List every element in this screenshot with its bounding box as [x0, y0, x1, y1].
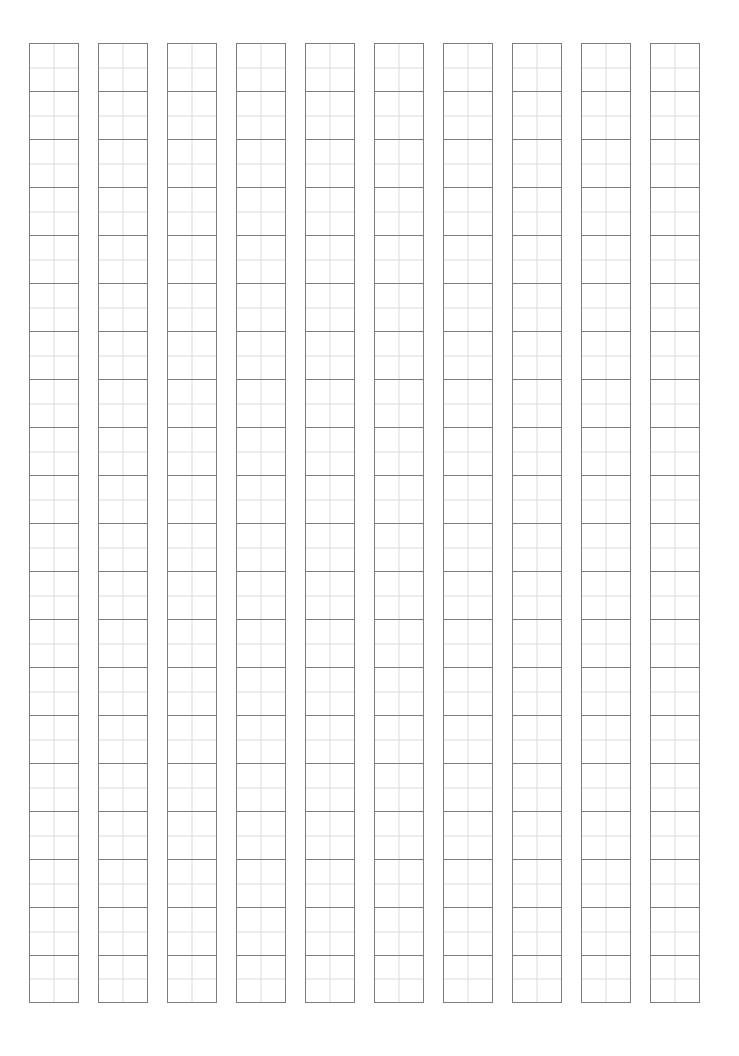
grid-cell[interactable]: [581, 667, 631, 715]
grid-cell[interactable]: [29, 427, 79, 475]
grid-cell[interactable]: [305, 571, 355, 619]
grid-cell[interactable]: [650, 331, 700, 379]
grid-cell[interactable]: [374, 811, 424, 859]
grid-cell[interactable]: [167, 331, 217, 379]
grid-cell[interactable]: [443, 427, 493, 475]
grid-cell[interactable]: [650, 235, 700, 283]
grid-cell[interactable]: [443, 619, 493, 667]
grid-cell[interactable]: [29, 955, 79, 1003]
grid-cell[interactable]: [374, 379, 424, 427]
grid-cell[interactable]: [581, 619, 631, 667]
grid-cell[interactable]: [512, 139, 562, 187]
grid-cell[interactable]: [512, 571, 562, 619]
grid-cell[interactable]: [512, 955, 562, 1003]
grid-cell[interactable]: [512, 811, 562, 859]
grid-cell[interactable]: [650, 715, 700, 763]
grid-cell[interactable]: [374, 571, 424, 619]
grid-cell[interactable]: [443, 907, 493, 955]
grid-cell[interactable]: [305, 187, 355, 235]
grid-cell[interactable]: [305, 379, 355, 427]
grid-cell[interactable]: [98, 379, 148, 427]
grid-cell[interactable]: [305, 811, 355, 859]
grid-cell[interactable]: [167, 91, 217, 139]
grid-cell[interactable]: [443, 955, 493, 1003]
grid-cell[interactable]: [374, 763, 424, 811]
grid-cell[interactable]: [236, 283, 286, 331]
grid-cell[interactable]: [167, 955, 217, 1003]
grid-cell[interactable]: [650, 379, 700, 427]
grid-cell[interactable]: [236, 379, 286, 427]
grid-cell[interactable]: [374, 715, 424, 763]
grid-cell[interactable]: [374, 475, 424, 523]
grid-cell[interactable]: [374, 283, 424, 331]
grid-cell[interactable]: [443, 379, 493, 427]
grid-cell[interactable]: [650, 811, 700, 859]
grid-cell[interactable]: [581, 379, 631, 427]
grid-cell[interactable]: [512, 475, 562, 523]
grid-cell[interactable]: [305, 475, 355, 523]
grid-cell[interactable]: [512, 427, 562, 475]
grid-cell[interactable]: [29, 379, 79, 427]
grid-cell[interactable]: [305, 763, 355, 811]
grid-cell[interactable]: [443, 235, 493, 283]
grid-cell[interactable]: [236, 715, 286, 763]
grid-cell[interactable]: [581, 139, 631, 187]
grid-cell[interactable]: [512, 91, 562, 139]
grid-cell[interactable]: [167, 379, 217, 427]
grid-cell[interactable]: [581, 523, 631, 571]
grid-cell[interactable]: [650, 571, 700, 619]
grid-cell[interactable]: [443, 43, 493, 91]
grid-cell[interactable]: [29, 715, 79, 763]
grid-cell[interactable]: [98, 91, 148, 139]
grid-cell[interactable]: [512, 235, 562, 283]
grid-cell[interactable]: [443, 523, 493, 571]
grid-cell[interactable]: [305, 235, 355, 283]
grid-cell[interactable]: [29, 907, 79, 955]
grid-cell[interactable]: [650, 475, 700, 523]
grid-cell[interactable]: [650, 283, 700, 331]
grid-cell[interactable]: [29, 859, 79, 907]
grid-cell[interactable]: [236, 187, 286, 235]
grid-cell[interactable]: [374, 235, 424, 283]
grid-cell[interactable]: [650, 955, 700, 1003]
grid-cell[interactable]: [305, 859, 355, 907]
grid-cell[interactable]: [581, 427, 631, 475]
grid-cell[interactable]: [443, 139, 493, 187]
grid-cell[interactable]: [512, 619, 562, 667]
grid-cell[interactable]: [305, 667, 355, 715]
grid-cell[interactable]: [98, 235, 148, 283]
grid-cell[interactable]: [98, 667, 148, 715]
grid-cell[interactable]: [236, 475, 286, 523]
grid-cell[interactable]: [443, 811, 493, 859]
grid-cell[interactable]: [236, 571, 286, 619]
grid-cell[interactable]: [374, 859, 424, 907]
grid-cell[interactable]: [98, 715, 148, 763]
grid-cell[interactable]: [650, 43, 700, 91]
grid-cell[interactable]: [167, 619, 217, 667]
grid-cell[interactable]: [374, 907, 424, 955]
grid-cell[interactable]: [167, 907, 217, 955]
grid-cell[interactable]: [29, 139, 79, 187]
grid-cell[interactable]: [305, 619, 355, 667]
grid-cell[interactable]: [581, 187, 631, 235]
grid-cell[interactable]: [167, 859, 217, 907]
grid-cell[interactable]: [167, 523, 217, 571]
grid-cell[interactable]: [512, 859, 562, 907]
grid-cell[interactable]: [512, 667, 562, 715]
grid-cell[interactable]: [305, 523, 355, 571]
grid-cell[interactable]: [29, 331, 79, 379]
grid-cell[interactable]: [443, 667, 493, 715]
grid-cell[interactable]: [650, 187, 700, 235]
grid-cell[interactable]: [374, 619, 424, 667]
grid-cell[interactable]: [443, 571, 493, 619]
grid-cell[interactable]: [374, 187, 424, 235]
grid-cell[interactable]: [305, 43, 355, 91]
grid-cell[interactable]: [236, 955, 286, 1003]
grid-cell[interactable]: [581, 91, 631, 139]
grid-cell[interactable]: [98, 475, 148, 523]
grid-cell[interactable]: [167, 571, 217, 619]
grid-cell[interactable]: [443, 715, 493, 763]
grid-cell[interactable]: [236, 523, 286, 571]
grid-cell[interactable]: [581, 571, 631, 619]
grid-cell[interactable]: [581, 283, 631, 331]
